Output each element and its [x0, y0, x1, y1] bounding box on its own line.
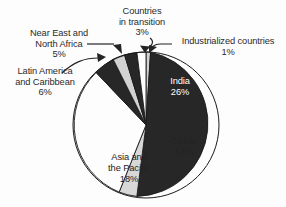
label-asia-and-the-pacific: Asia and the Pacific 18% [104, 152, 154, 184]
label-near-east-and-north-africa: Near East and North Africa 5% [16, 28, 102, 60]
label-industrialized-countries: Industrialized countries 1% [172, 36, 284, 57]
arrowhead-near-east-north-africa [113, 44, 122, 54]
label-sub-saharan-africa: Sub-Saharan Africa 24% [72, 110, 134, 142]
label-china: China 17% [163, 136, 205, 158]
label-india: India 26% [158, 76, 202, 98]
label-countries-in-transition: Countries in transition 3% [104, 6, 180, 38]
pie-chart-figure: Countries in transition 3% Near East and… [0, 0, 286, 207]
arrowhead-industrialized-countries [149, 45, 157, 53]
label-latin-america-and-caribbean: Latin America and Caribbean 6% [2, 66, 88, 98]
